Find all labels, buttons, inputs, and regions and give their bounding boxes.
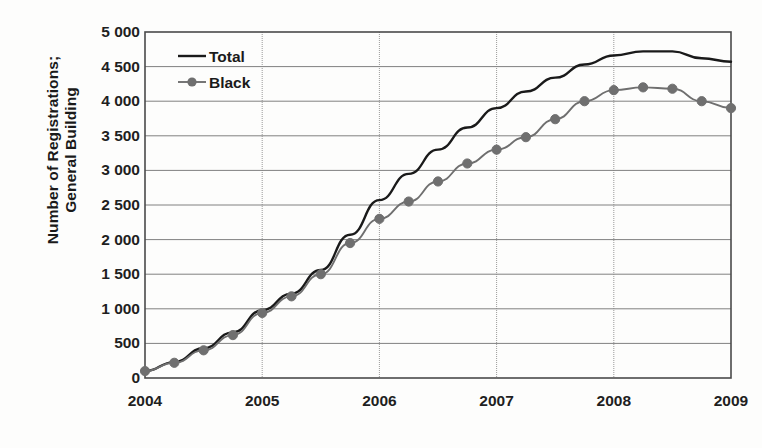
data-point-marker	[580, 97, 589, 106]
data-series-layer	[140, 51, 735, 375]
data-point-marker	[228, 331, 237, 340]
x-axis-tick-label: 2009	[691, 392, 762, 410]
chart-figure: Number of Registrations; General Buildin…	[0, 0, 762, 448]
data-point-marker	[346, 238, 355, 247]
data-point-marker	[697, 97, 706, 106]
plot-area: TotalBlack	[0, 0, 762, 448]
data-point-marker	[551, 115, 560, 124]
x-axis-tick-label: 2004	[105, 392, 185, 410]
legend-label-total: Total	[209, 48, 245, 65]
data-point-marker	[170, 358, 179, 367]
data-point-marker	[433, 177, 442, 186]
x-axis-tick-label: 2008	[574, 392, 654, 410]
series-line-black	[145, 87, 731, 371]
x-axis-tick-label: 2007	[457, 392, 537, 410]
data-point-marker	[463, 159, 472, 168]
series-line-total	[145, 51, 731, 371]
legend-label-black: Black	[209, 74, 251, 91]
data-point-marker	[639, 83, 648, 92]
data-point-marker	[668, 84, 677, 93]
x-axis-tick-label: 2005	[222, 392, 302, 410]
data-point-marker	[609, 86, 618, 95]
data-point-marker	[404, 197, 413, 206]
data-point-marker	[375, 214, 384, 223]
data-point-marker	[521, 133, 530, 142]
data-point-marker	[287, 292, 296, 301]
data-point-marker	[258, 308, 267, 317]
data-point-marker	[726, 104, 735, 113]
data-point-marker	[140, 366, 149, 375]
data-point-marker	[492, 145, 501, 154]
x-axis-tick-label: 2006	[339, 392, 419, 410]
data-point-marker	[199, 346, 208, 355]
data-point-marker	[316, 270, 325, 279]
chart-legend: TotalBlack	[178, 48, 251, 91]
